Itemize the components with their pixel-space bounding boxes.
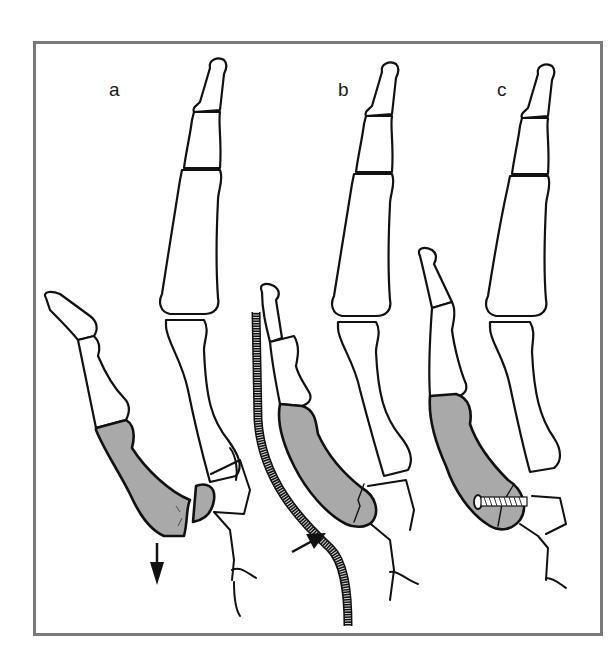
carpal-line-a2	[232, 569, 256, 578]
carpal-line-b1	[366, 520, 394, 600]
downward-force-arrow	[150, 543, 164, 585]
distal-phalanx-small-c	[419, 248, 452, 308]
carpal-bone-c	[532, 496, 566, 534]
panel-b	[230, 62, 418, 626]
carpal-line-a1	[214, 512, 234, 580]
panel-a	[45, 58, 256, 616]
proximal-phalanx-small-a	[78, 336, 129, 428]
long-finger-bones-b	[332, 62, 411, 476]
panel-c	[419, 64, 566, 588]
proximal-phalanx-small-b	[270, 336, 311, 406]
diagram-canvas	[0, 0, 611, 665]
long-finger-bones-c	[486, 64, 560, 472]
proximal-phalanx-small-c	[429, 302, 466, 398]
fracture-base-fragment-a	[193, 485, 214, 522]
long-finger-bones-a	[160, 58, 240, 482]
distal-phalanx-small-b	[261, 284, 282, 342]
carpal-line-a3	[234, 582, 240, 616]
carpal-line-c1	[520, 524, 548, 580]
displaced-metacarpal-a	[96, 420, 190, 536]
carpal-line-c2	[546, 578, 566, 588]
distal-phalanx-small-a	[45, 292, 97, 340]
